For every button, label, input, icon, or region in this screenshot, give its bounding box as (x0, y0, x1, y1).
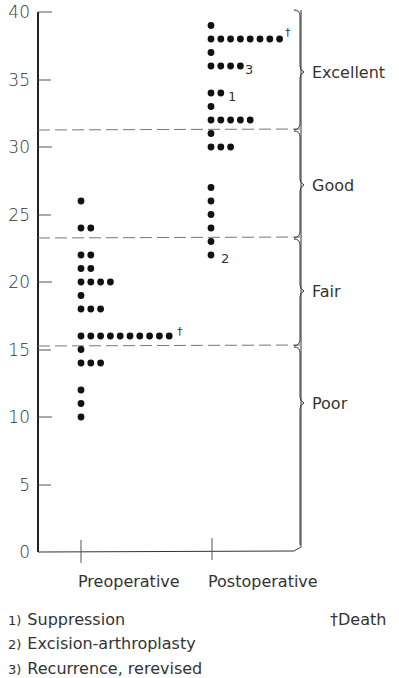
data-dot (78, 292, 85, 299)
data-dot (208, 211, 215, 218)
data-dot (127, 333, 134, 340)
legend-marker-1: 1) (8, 613, 21, 628)
data-dot (87, 360, 94, 367)
data-dot (87, 252, 94, 259)
data-dot (87, 225, 94, 232)
data-dot (208, 22, 215, 29)
data-dot (208, 198, 215, 205)
y-tick-label-5: 5 (19, 475, 30, 495)
grade-threshold-lines (38, 129, 300, 346)
data-dot (208, 49, 215, 56)
data-dot (276, 36, 283, 43)
data-dot (78, 333, 85, 340)
y-tick-label-25: 25 (8, 205, 30, 225)
data-dot (208, 130, 215, 137)
data-dot (107, 333, 114, 340)
legend-text-1: Suppression (27, 610, 125, 629)
data-dot (78, 252, 85, 259)
category-label-postoperative: Postoperative (208, 572, 318, 591)
data-dots (78, 22, 283, 420)
data-dot (136, 333, 143, 340)
data-dot (78, 265, 85, 272)
data-dot (208, 238, 215, 245)
data-dot (97, 360, 104, 367)
data-dot (78, 400, 85, 407)
data-dot (78, 414, 85, 421)
data-dot (78, 225, 85, 232)
data-dot (78, 306, 85, 313)
data-dot (208, 144, 215, 151)
annotation-3: 3 (245, 62, 253, 77)
death-marker-preoperative: † (177, 325, 183, 338)
grade-label-good: Good (312, 176, 354, 195)
death-marker-postoperative: † (285, 26, 291, 39)
y-ticks (38, 12, 52, 485)
y-tick-labels: 40 35 30 25 20 15 10 5 0 (8, 2, 30, 562)
legend-death-text: †Death (330, 610, 386, 629)
legend-text-2: Excision-arthroplasty (27, 634, 195, 653)
grade-braces (294, 10, 304, 545)
data-dot (146, 333, 153, 340)
data-dot (87, 279, 94, 286)
category-label-preoperative: Preoperative (78, 572, 180, 591)
data-dot (78, 346, 85, 353)
legend-item-1: 1)Suppression (8, 610, 125, 629)
annotation-1: 1 (228, 89, 236, 104)
data-dot (217, 63, 224, 70)
y-tick-label-40: 40 (8, 2, 30, 22)
y-tick-label-10: 10 (8, 407, 30, 427)
data-dot (227, 63, 234, 70)
grade-label-fair: Fair (312, 282, 341, 301)
y-tick-label-35: 35 (8, 70, 30, 90)
data-dot (107, 279, 114, 286)
data-dot (237, 36, 244, 43)
data-dot (208, 184, 215, 191)
y-tick-label-15: 15 (8, 340, 30, 360)
data-dot (87, 265, 94, 272)
data-dot (97, 306, 104, 313)
data-dot (227, 36, 234, 43)
data-dot (208, 90, 215, 97)
grade-label-excellent: Excellent (312, 63, 385, 82)
data-dot (78, 279, 85, 286)
data-dot (87, 333, 94, 340)
data-dot (117, 333, 124, 340)
legend-item-3: 3)Recurrence, rerevised (8, 659, 202, 678)
y-tick-label-30: 30 (8, 137, 30, 157)
data-dot (97, 333, 104, 340)
data-dot (208, 225, 215, 232)
y-tick-label-20: 20 (8, 272, 30, 292)
data-dot (78, 360, 85, 367)
legend-item-2: 2)Excision-arthroplasty (8, 634, 196, 653)
data-dot (208, 252, 215, 259)
data-dot (217, 36, 224, 43)
data-dot (78, 198, 85, 205)
data-dot (237, 117, 244, 124)
data-dot (257, 36, 264, 43)
data-dot (166, 333, 173, 340)
data-dot (247, 117, 254, 124)
data-dot (208, 36, 215, 43)
data-dot (217, 144, 224, 151)
data-dot (217, 90, 224, 97)
data-dot (97, 279, 104, 286)
annotation-2: 2 (221, 251, 229, 266)
data-dot (208, 63, 215, 70)
legend-text-3: Recurrence, rerevised (27, 659, 202, 678)
legend-marker-2: 2) (8, 637, 21, 652)
data-dot (227, 117, 234, 124)
data-dot (208, 103, 215, 110)
data-dot (208, 117, 215, 124)
data-dot (247, 36, 254, 43)
legend-death: †Death (330, 610, 386, 629)
data-dot (266, 36, 273, 43)
data-dot (78, 387, 85, 394)
data-dot (156, 333, 163, 340)
data-dot (237, 63, 244, 70)
y-tick-label-0: 0 (19, 542, 30, 562)
x-axis-line (38, 551, 294, 552)
data-dot (87, 306, 94, 313)
legend-marker-3: 3) (8, 662, 21, 677)
data-dot (217, 117, 224, 124)
